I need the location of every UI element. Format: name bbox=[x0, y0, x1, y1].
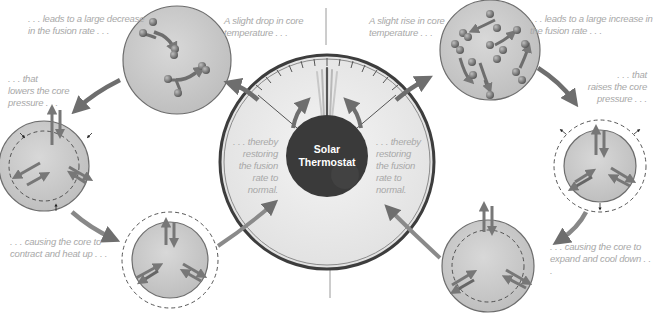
center-right-note: . . . thereby restoring the fusion rate … bbox=[376, 136, 436, 196]
core-expand-circle bbox=[442, 206, 534, 312]
caption-line: expand and cool down . . . bbox=[550, 253, 653, 277]
caption-line: pressure . . . bbox=[567, 93, 647, 105]
title-line-2: Thermostat bbox=[279, 156, 375, 169]
note-line: rate to bbox=[376, 172, 436, 184]
caption-expand: . . . causing the core to expand and coo… bbox=[550, 241, 653, 277]
note-line: the fusion bbox=[376, 160, 436, 172]
caption-line: in the fusion rate . . . bbox=[28, 25, 158, 37]
caption-line: contract and heat up . . . bbox=[10, 248, 130, 260]
note-line: rate to bbox=[228, 172, 278, 184]
note-line: . . . thereby bbox=[228, 136, 278, 148]
caption-line: temperature . . . bbox=[369, 27, 469, 39]
caption-line: . . . leads to a large decrease bbox=[28, 13, 158, 25]
note-line: restoring bbox=[376, 148, 436, 160]
pressure-low-circle bbox=[0, 110, 92, 211]
caption-line: pressure . . . bbox=[8, 97, 88, 109]
caption-line: A slight drop in core bbox=[224, 15, 324, 27]
caption-line: the fusion rate . . . bbox=[530, 25, 653, 37]
arrow-pressure-to-contract-icon bbox=[72, 212, 112, 238]
caption-line: raises the core bbox=[567, 81, 647, 93]
caption-line: . . . causing the core to bbox=[10, 236, 130, 248]
caption-temperature-rise: A slight rise in core temperature . . . bbox=[369, 15, 469, 39]
caption-line: temperature . . . bbox=[224, 27, 324, 39]
caption-line: . . . leads to a large increase in bbox=[530, 13, 653, 25]
caption-line: . . . that bbox=[8, 73, 88, 85]
thermostat-title: Solar Thermostat bbox=[279, 143, 375, 169]
caption-pressure-raise: . . . that raises the core pressure . . … bbox=[567, 69, 647, 105]
core-contract-circle bbox=[122, 212, 218, 308]
caption-temperature-drop: A slight drop in core temperature . . . bbox=[224, 15, 324, 39]
note-line: normal. bbox=[228, 184, 278, 196]
pressure-high-circle bbox=[554, 120, 646, 212]
caption-fusion-increase: . . . leads to a large increase in the f… bbox=[530, 13, 653, 37]
caption-contract: . . . causing the core to contract and h… bbox=[10, 236, 130, 260]
title-line-1: Solar bbox=[279, 143, 375, 156]
caption-pressure-lower: . . . that lowers the core pressure . . … bbox=[8, 73, 88, 109]
note-line: restoring bbox=[228, 148, 278, 160]
caption-line: . . . causing the core to bbox=[550, 241, 653, 253]
caption-line: lowers the core bbox=[8, 85, 88, 97]
arrow-pressure-to-expand-icon bbox=[560, 212, 586, 240]
note-line: normal. bbox=[376, 184, 436, 196]
caption-fusion-decrease: . . . leads to a large decrease in the f… bbox=[28, 13, 158, 37]
note-line: the fusion bbox=[228, 160, 278, 172]
note-line: . . . thereby bbox=[376, 136, 436, 148]
caption-line: . . . that bbox=[567, 69, 647, 81]
caption-line: A slight rise in core bbox=[369, 15, 469, 27]
center-left-note: . . . thereby restoring the fusion rate … bbox=[228, 136, 278, 196]
